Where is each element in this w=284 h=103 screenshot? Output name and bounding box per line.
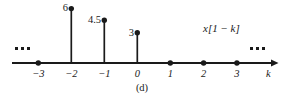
axis-label-k: k bbox=[266, 69, 271, 80]
tick-label-minus-1: −1 bbox=[98, 69, 110, 80]
tick-label-3: 3 bbox=[234, 69, 239, 80]
tick-label-minus-2: −2 bbox=[65, 69, 77, 80]
stem-k-minus-2 bbox=[69, 6, 74, 63]
ellipsis-dot bbox=[27, 47, 30, 50]
ellipsis-dot bbox=[256, 47, 259, 50]
left-ellipsis bbox=[15, 47, 30, 50]
ellipsis-dot bbox=[15, 47, 18, 50]
stem-k-minus-1 bbox=[102, 18, 107, 64]
sample-dot-k-1 bbox=[168, 60, 173, 65]
stem-value-label-6: 6 bbox=[63, 3, 68, 14]
stem-plot-figure: 6 4.5 3 −3 −2 −1 0 1 2 3 k x[1 − k] (d) bbox=[0, 0, 284, 103]
stem-k-0 bbox=[135, 30, 140, 63]
tick-label-0: 0 bbox=[135, 69, 140, 80]
tick-label-2: 2 bbox=[201, 69, 206, 80]
stem-value-label-4-5: 4.5 bbox=[88, 15, 101, 26]
right-ellipsis bbox=[250, 47, 265, 50]
tick-label-1: 1 bbox=[168, 69, 173, 80]
tick-label-minus-3: −3 bbox=[32, 69, 44, 80]
ellipsis-dot bbox=[250, 47, 253, 50]
ellipsis-dot bbox=[21, 47, 24, 50]
sample-dot-k-2 bbox=[201, 60, 206, 65]
sample-dot-k-3 bbox=[234, 60, 239, 65]
stem-value-label-3: 3 bbox=[129, 28, 134, 39]
sample-dot-k-minus-3 bbox=[36, 60, 41, 65]
signal-expression-label: x[1 − k] bbox=[203, 23, 240, 34]
ellipsis-dot bbox=[262, 47, 265, 50]
figure-caption: (d) bbox=[136, 83, 148, 94]
